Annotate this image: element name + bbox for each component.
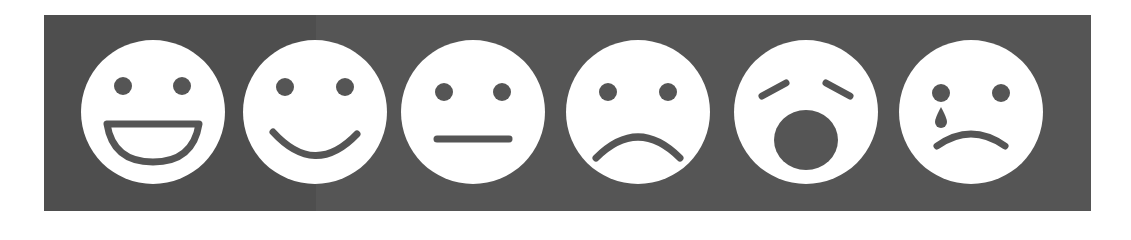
anguished-face-icon [734,40,878,184]
laughing-face-icon [81,40,225,184]
face-sad[interactable]: Sad [566,40,710,184]
smiling-face-icon [243,40,387,184]
face-very-happy[interactable]: Very happy [81,40,225,184]
face-shocked[interactable]: Shocked / distressed [734,40,878,184]
face-neutral[interactable]: Neutral [401,40,545,184]
frowning-face-icon [566,40,710,184]
crying-face-icon [899,40,1043,184]
neutral-face-icon [401,40,545,184]
face-happy[interactable]: Happy [243,40,387,184]
face-crying[interactable]: Crying [899,40,1043,184]
